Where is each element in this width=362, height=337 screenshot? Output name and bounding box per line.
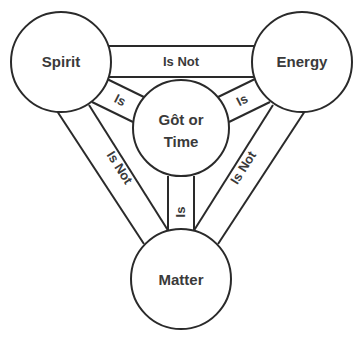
edge-label-energy-matter: Is Not (227, 148, 259, 187)
node-label-matter: Matter (158, 271, 203, 288)
edge-matter-center: Is (168, 176, 194, 231)
node-label-energy: Energy (277, 53, 329, 70)
node-label-center-line1: Gôt or (159, 111, 204, 128)
node-label-spirit: Spirit (42, 53, 80, 70)
edge-label-spirit-energy: Is Not (163, 54, 200, 69)
node-center: Gôt or Time (133, 80, 229, 176)
node-energy: Energy (252, 12, 352, 112)
edge-label-matter-center: Is (173, 207, 188, 218)
node-spirit: Spirit (11, 12, 111, 112)
edge-label-energy-center: Is (234, 91, 250, 109)
edge-spirit-energy: Is Not (105, 46, 258, 77)
trinity-diagram: Is Not Is Not Is Not Is Is Is Spirit Ene… (0, 0, 362, 337)
node-label-center-line2: Time (164, 133, 199, 150)
node-matter: Matter (131, 229, 231, 329)
edge-label-spirit-matter: Is Not (104, 148, 136, 187)
edge-label-spirit-center: Is (112, 91, 128, 109)
